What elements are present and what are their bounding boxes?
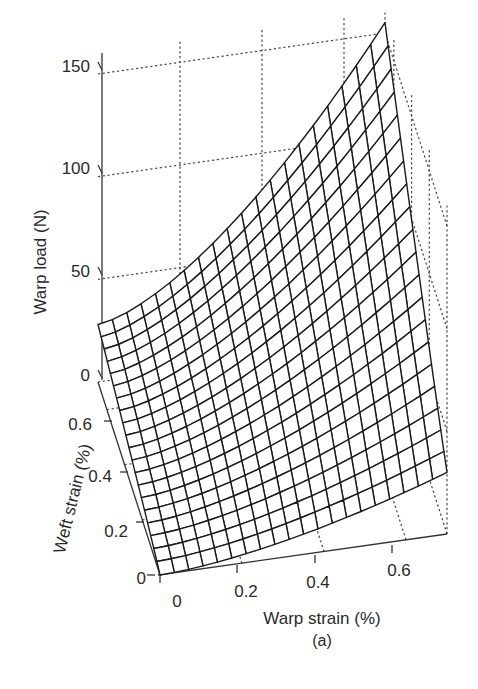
z-axis-title: Warp load (N) — [31, 209, 50, 314]
surface-mesh — [98, 23, 447, 575]
weft-tick-label: 0.4 — [88, 467, 112, 486]
warp-tick-label: 0.6 — [387, 561, 411, 580]
weft-axis-title: Weft strain (%) — [50, 442, 96, 555]
z-tick-label: 0 — [81, 366, 90, 385]
z-tick-label: 50 — [71, 262, 90, 281]
z-tick-label: 150 — [62, 57, 90, 76]
z-tick-label: 100 — [62, 159, 90, 178]
mesh-cell — [157, 559, 174, 575]
warp-axis-title: Warp strain (%) — [263, 609, 380, 628]
warp-tick-label: 0.4 — [306, 573, 330, 592]
figure-caption: (a) — [312, 632, 332, 649]
grid-line — [98, 33, 385, 74]
warp-tick-label: 0.2 — [234, 582, 258, 601]
weft-tick-label: 0.2 — [104, 522, 128, 541]
weft-tick-label: 0.6 — [68, 415, 92, 434]
surface-plot: 150 100 50 0 0.6 0.4 0.2 0 0 0.2 0.4 0.6… — [0, 0, 478, 689]
warp-tick-label: 0 — [172, 592, 181, 611]
weft-tick-label: 0 — [137, 569, 146, 588]
